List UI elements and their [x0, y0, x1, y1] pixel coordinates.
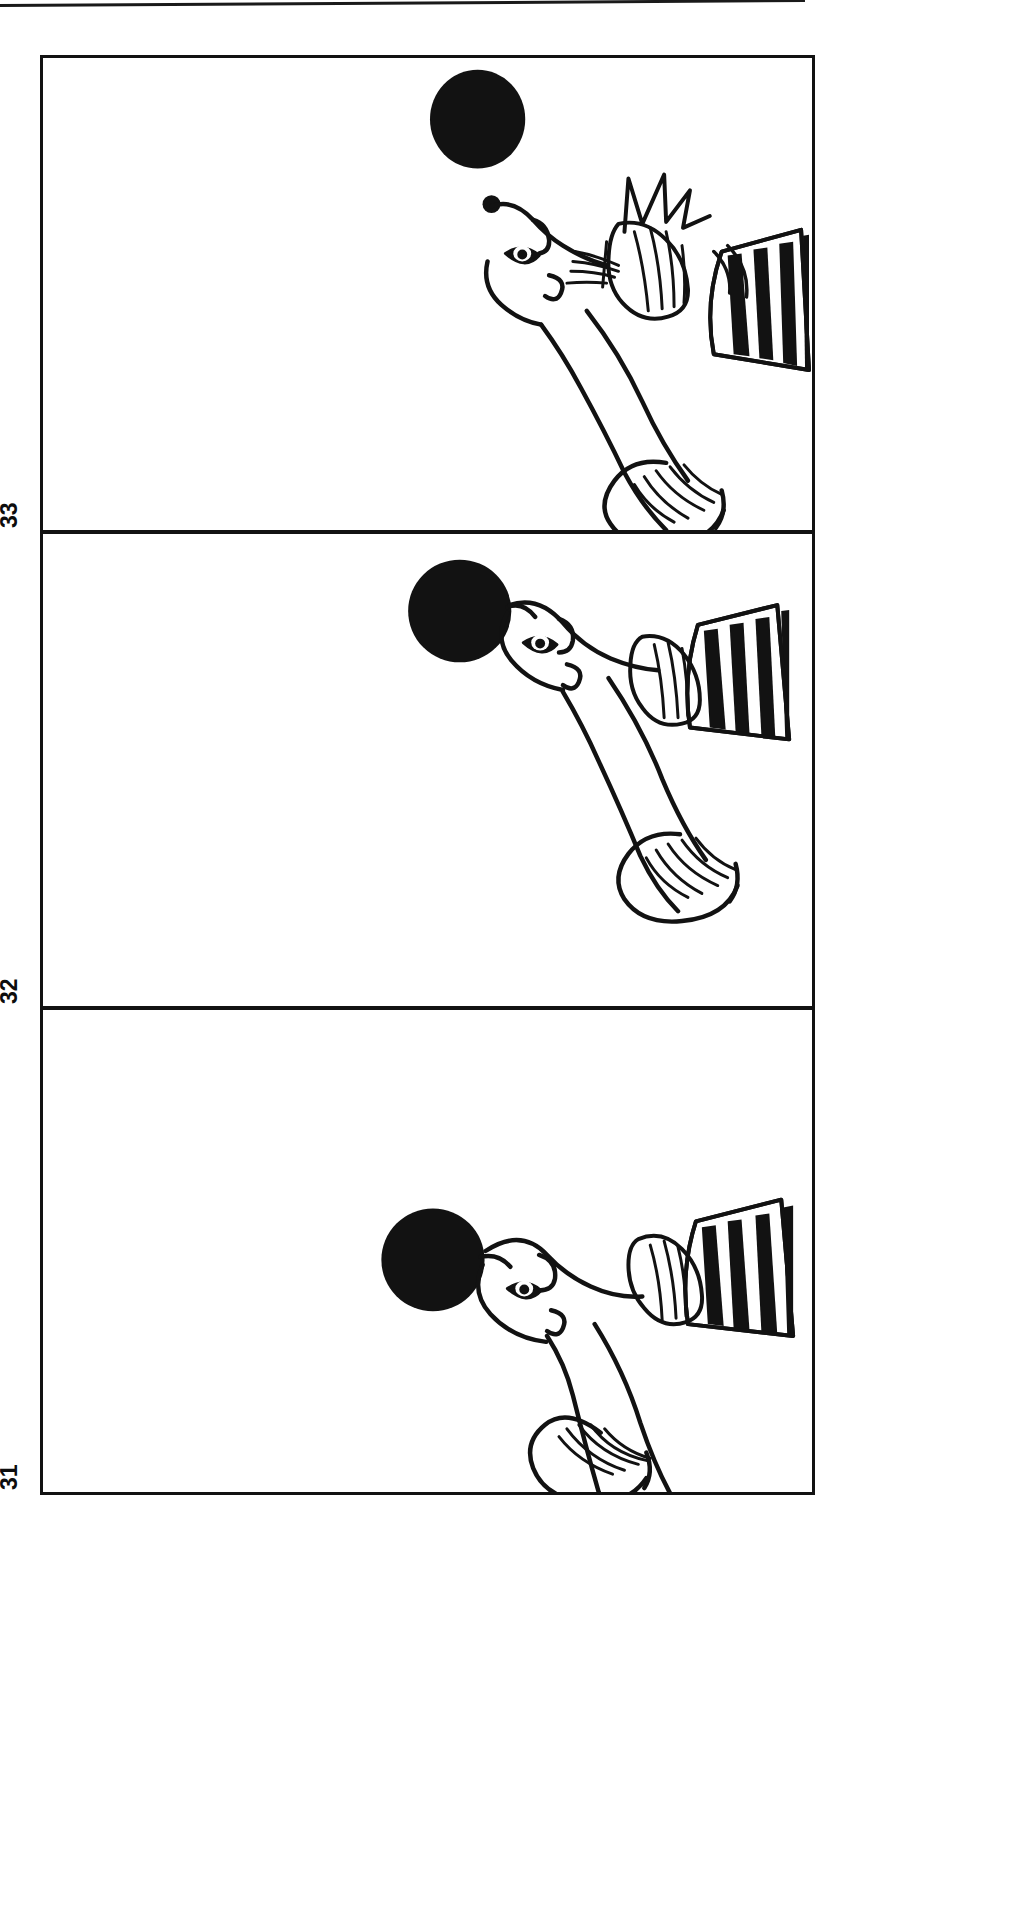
- ball-shape: [430, 70, 525, 169]
- ball-shape: [381, 1209, 484, 1312]
- panel-artwork-33: [43, 58, 812, 530]
- panel-number-label: 32: [0, 978, 21, 1004]
- tail-flipper-shape: [604, 462, 723, 530]
- comic-panel[interactable]: 31: [40, 1007, 815, 1495]
- comic-strip: 33: [40, 55, 815, 1495]
- panel-number-label: 33: [0, 502, 21, 528]
- panel-artwork-32: [43, 534, 812, 1006]
- page-canvas: 33: [0, 0, 1032, 1910]
- fan-stripes: [704, 610, 789, 739]
- ball-shape: [408, 560, 511, 663]
- fan-stripes: [702, 1206, 793, 1336]
- panel-number-label: 31: [0, 1464, 21, 1490]
- scan-edge-line: [0, 0, 805, 7]
- comic-panel[interactable]: 32: [40, 531, 815, 1009]
- panel-artwork-31: [43, 1010, 812, 1492]
- comic-panel[interactable]: 33: [40, 55, 815, 533]
- fan-stripes: [728, 235, 809, 370]
